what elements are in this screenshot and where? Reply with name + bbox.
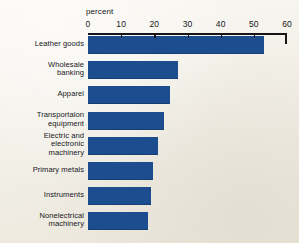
bar — [88, 187, 151, 205]
category-label: Electric and electronic machinery — [0, 132, 84, 158]
x-tick-label: 30 — [183, 19, 193, 29]
x-axis-tick — [121, 33, 122, 38]
bar-row — [88, 86, 170, 104]
category-axis-labels: Leather goodsWholesale bankingApparelTra… — [0, 33, 84, 238]
bar-row — [88, 162, 153, 180]
x-tick-label: 0 — [86, 19, 91, 29]
category-label: Apparel — [0, 90, 84, 99]
bar-row — [88, 187, 151, 205]
x-axis-tick — [188, 33, 189, 38]
x-tick-label: 20 — [150, 19, 160, 29]
category-label: Nonelectrical machinery — [0, 212, 84, 229]
bar-row — [88, 212, 148, 230]
category-label: Transportaion equipment — [0, 111, 84, 128]
category-label: Primary metals — [0, 166, 84, 175]
bar-row — [88, 137, 158, 155]
category-label: Wholesale banking — [0, 61, 84, 78]
bar — [88, 162, 153, 180]
bar — [88, 112, 164, 130]
plot-area — [88, 33, 287, 238]
bar — [88, 86, 170, 104]
percent-bar-chart: percent 0102030405060 Leather goodsWhole… — [0, 0, 299, 243]
category-label: Instruments — [0, 191, 84, 200]
x-axis-tick — [221, 33, 222, 38]
bar — [88, 137, 158, 155]
x-axis-tick — [154, 33, 155, 38]
x-axis-tick — [254, 33, 255, 38]
x-axis-tick-labels: 0102030405060 — [0, 19, 299, 31]
bar — [88, 212, 148, 230]
x-tick-label: 50 — [249, 19, 259, 29]
bar-row — [88, 112, 164, 130]
bar-row — [88, 36, 264, 54]
category-label: Leather goods — [0, 40, 84, 49]
bar — [88, 36, 264, 54]
x-tick-label: 10 — [116, 19, 126, 29]
x-tick-label: 40 — [216, 19, 226, 29]
axis-unit-label: percent — [86, 7, 113, 16]
bars-layer — [88, 33, 287, 238]
bar — [88, 61, 178, 79]
x-tick-label: 60 — [282, 19, 292, 29]
bar-row — [88, 61, 178, 79]
